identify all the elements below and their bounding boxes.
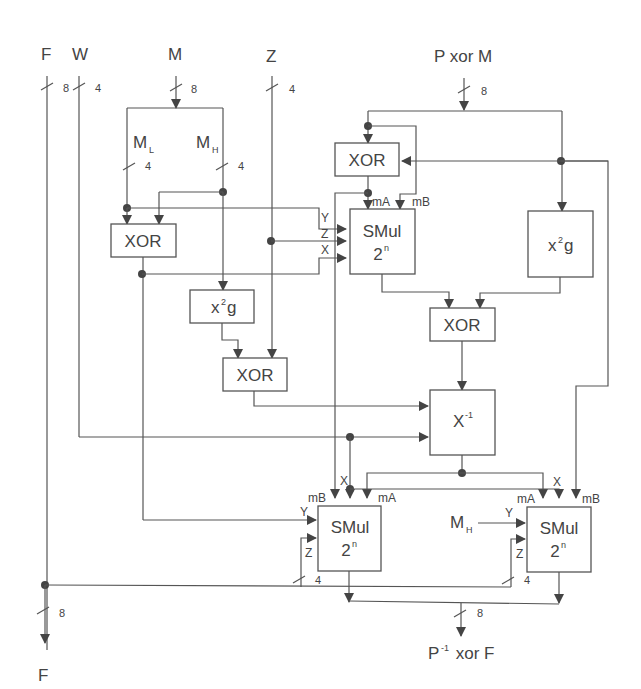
- svg-text:SMul: SMul: [540, 519, 579, 538]
- svg-text:2: 2: [558, 235, 563, 245]
- mh-right-label: M: [450, 513, 464, 532]
- svg-text:-1: -1: [441, 643, 449, 653]
- svg-text:SMul: SMul: [363, 222, 402, 241]
- svg-text:H: H: [212, 145, 219, 155]
- svg-text:8: 8: [481, 85, 487, 97]
- svg-text:8: 8: [59, 607, 65, 619]
- svg-text:x: x: [548, 236, 557, 255]
- xor-center-block: XOR: [430, 308, 495, 341]
- pxorm-input-bus: 8: [368, 78, 562, 111]
- svg-text:mA: mA: [372, 195, 390, 209]
- svg-text:XOR: XOR: [349, 151, 386, 170]
- svg-text:XOR: XOR: [237, 366, 274, 385]
- svg-text:Y: Y: [321, 211, 329, 225]
- mh-label: M: [196, 133, 210, 152]
- svg-text:-1: -1: [465, 410, 473, 420]
- xor-top-block: XOR: [335, 143, 399, 176]
- svg-text:2: 2: [341, 541, 350, 560]
- input-label-p-xor-m: P xor M: [434, 47, 492, 66]
- svg-text:g: g: [227, 298, 236, 317]
- svg-text:X: X: [340, 474, 348, 488]
- z-input-line: 4: [266, 76, 346, 358]
- svg-text:g: g: [564, 236, 573, 255]
- svg-text:mB: mB: [308, 491, 326, 505]
- svg-text:8: 8: [477, 607, 483, 619]
- svg-text:n: n: [352, 539, 357, 549]
- svg-text:xor F: xor F: [451, 644, 494, 663]
- output-label-f: F: [38, 666, 48, 685]
- svg-text:4: 4: [95, 82, 101, 94]
- svg-text:mB: mB: [582, 492, 600, 506]
- inverse-block: X -1: [430, 390, 495, 455]
- svg-text:4: 4: [238, 160, 244, 172]
- smul-bottom-left-block: SMul 2 n: [318, 506, 381, 571]
- svg-text:4: 4: [315, 574, 321, 586]
- circuit-diagram: F W M Z P xor M 8 8 F 4 8 M L 4 M H 4: [0, 0, 641, 689]
- svg-text:2: 2: [550, 542, 559, 561]
- input-label-f: F: [41, 45, 51, 64]
- svg-text:mA: mA: [378, 491, 396, 505]
- x2g-right-block: x 2 g: [528, 211, 593, 277]
- svg-text:x: x: [211, 298, 220, 317]
- input-label-m: M: [168, 45, 182, 64]
- x2g-left-block: x 2 g: [190, 290, 254, 323]
- svg-text:8: 8: [63, 82, 69, 94]
- svg-text:Z: Z: [321, 227, 328, 241]
- svg-text:L: L: [149, 145, 154, 155]
- input-label-z: Z: [266, 47, 276, 66]
- f-line: 8 8: [37, 76, 69, 650]
- svg-text:n: n: [384, 243, 389, 253]
- svg-text:Y: Y: [505, 506, 513, 520]
- svg-text:mB: mB: [412, 195, 430, 209]
- svg-text:XOR: XOR: [125, 232, 162, 251]
- svg-text:Z: Z: [305, 546, 312, 560]
- svg-text:P: P: [428, 644, 439, 663]
- svg-text:Y: Y: [300, 505, 308, 519]
- ml-label: M: [133, 133, 147, 152]
- svg-text:n: n: [561, 540, 566, 550]
- svg-text:2: 2: [373, 245, 382, 264]
- svg-text:4: 4: [524, 574, 530, 586]
- svg-text:mA: mA: [517, 492, 535, 506]
- svg-text:XOR: XOR: [444, 316, 481, 335]
- svg-text:X: X: [553, 475, 561, 489]
- smul-bottom-right-block: SMul 2 n: [527, 507, 591, 572]
- svg-text:8: 8: [191, 83, 197, 95]
- output-label-result: P -1 xor F: [428, 643, 494, 663]
- svg-text:4: 4: [289, 83, 295, 95]
- svg-text:H: H: [466, 525, 473, 535]
- svg-text:X: X: [321, 243, 329, 257]
- input-label-w: W: [72, 45, 88, 64]
- svg-text:SMul: SMul: [331, 518, 370, 537]
- svg-text:X: X: [453, 412, 464, 431]
- svg-text:4: 4: [145, 160, 151, 172]
- xor-left-block: XOR: [111, 224, 176, 257]
- xor-mid-block: XOR: [223, 358, 287, 391]
- svg-text:Z: Z: [516, 547, 523, 561]
- smul-top-block: SMul 2 n: [350, 209, 415, 274]
- svg-text:2: 2: [221, 297, 226, 307]
